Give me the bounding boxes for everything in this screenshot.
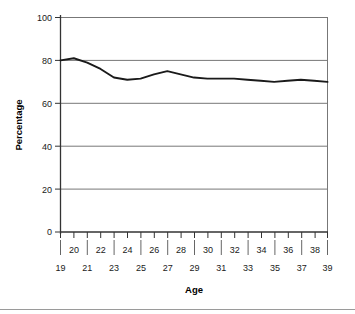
- x-tick-label-32: 32: [230, 245, 240, 255]
- y-axis-title: Percentage: [13, 99, 24, 150]
- y-tick-label-100: 100: [37, 13, 52, 23]
- x-tick-label-24: 24: [122, 245, 132, 255]
- x-tick-label-29: 29: [189, 263, 199, 273]
- x-tick-label-21: 21: [82, 263, 92, 273]
- y-tick-label-60: 60: [42, 99, 52, 109]
- x-tick-label-19: 19: [55, 263, 65, 273]
- x-tick-label-28: 28: [176, 245, 186, 255]
- x-tick-label-22: 22: [96, 245, 106, 255]
- x-tick-label-23: 23: [109, 263, 119, 273]
- x-tick-label-30: 30: [203, 245, 213, 255]
- y-tick-label-40: 40: [42, 142, 52, 152]
- y-tick-label-0: 0: [47, 227, 52, 237]
- x-tick-label-34: 34: [256, 245, 266, 255]
- x-tick-label-31: 31: [216, 263, 226, 273]
- x-tick-label-26: 26: [149, 245, 159, 255]
- x-tick-label-38: 38: [310, 245, 320, 255]
- x-tick-label-37: 37: [297, 263, 307, 273]
- x-tick-label-27: 27: [163, 263, 173, 273]
- page-bottom-rule: [0, 309, 355, 310]
- y-tick-label-20: 20: [42, 185, 52, 195]
- x-tick-label-20: 20: [69, 245, 79, 255]
- x-axis-title: Age: [185, 284, 203, 295]
- x-tick-label-36: 36: [283, 245, 293, 255]
- x-tick-label-33: 33: [243, 263, 253, 273]
- y-tick-label-80: 80: [42, 56, 52, 66]
- chart-figure: 100 80 60 40 20 0: [0, 0, 355, 314]
- x-tick-label-25: 25: [136, 263, 146, 273]
- x-tick-label-35: 35: [270, 263, 280, 273]
- x-tick-label-39: 39: [322, 263, 332, 273]
- line-chart: 100 80 60 40 20 0: [0, 0, 355, 314]
